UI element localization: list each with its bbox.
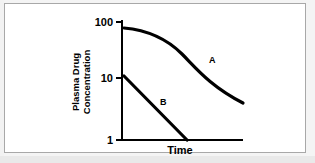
- series-line-a: [124, 28, 243, 103]
- series-line-b: [124, 76, 187, 140]
- y-tick-label-10: 10: [101, 72, 113, 84]
- x-axis-title: Time: [167, 144, 192, 156]
- y-tick-label-100: 100: [95, 16, 113, 28]
- series-label-b: B: [160, 97, 167, 107]
- figure-root: Plasma Drug Concentration 100 10 1 A B T…: [0, 0, 315, 163]
- y-tick-label-1: 1: [107, 134, 113, 146]
- series-label-a: A: [209, 55, 216, 65]
- chart-plot-area: 100 10 1 A B Time: [0, 0, 315, 163]
